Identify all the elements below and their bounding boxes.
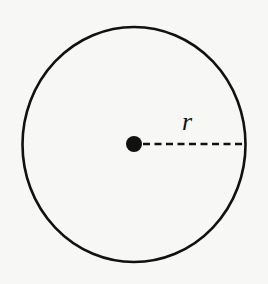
radius-label: r <box>182 107 193 136</box>
diagram-svg: r <box>0 0 268 284</box>
center-point <box>126 136 142 152</box>
circle-diagram: r <box>0 0 268 284</box>
